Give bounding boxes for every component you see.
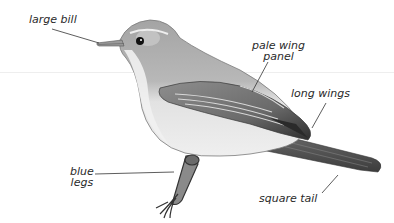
label-blue-legs: blue legs	[70, 166, 94, 188]
leader-tail	[322, 175, 338, 193]
label-long-wings: long wings	[291, 88, 350, 99]
legs-shape	[156, 155, 199, 218]
label-pale-wing-panel-line2: panel	[252, 51, 305, 62]
leader-wings	[312, 103, 326, 128]
bill-shape	[97, 40, 124, 46]
leader-bill	[52, 29, 99, 43]
bird-drawing	[0, 0, 394, 223]
bird-field-mark-illustration: large bill pale wing panel long wings bl…	[0, 0, 394, 223]
label-pale-wing-panel: pale wing panel	[252, 40, 305, 62]
label-large-bill: large bill	[29, 14, 77, 25]
eye	[136, 37, 144, 45]
leader-legs	[95, 172, 174, 174]
label-square-tail: square tail	[259, 193, 317, 204]
label-blue-legs-line2: legs	[70, 177, 94, 188]
